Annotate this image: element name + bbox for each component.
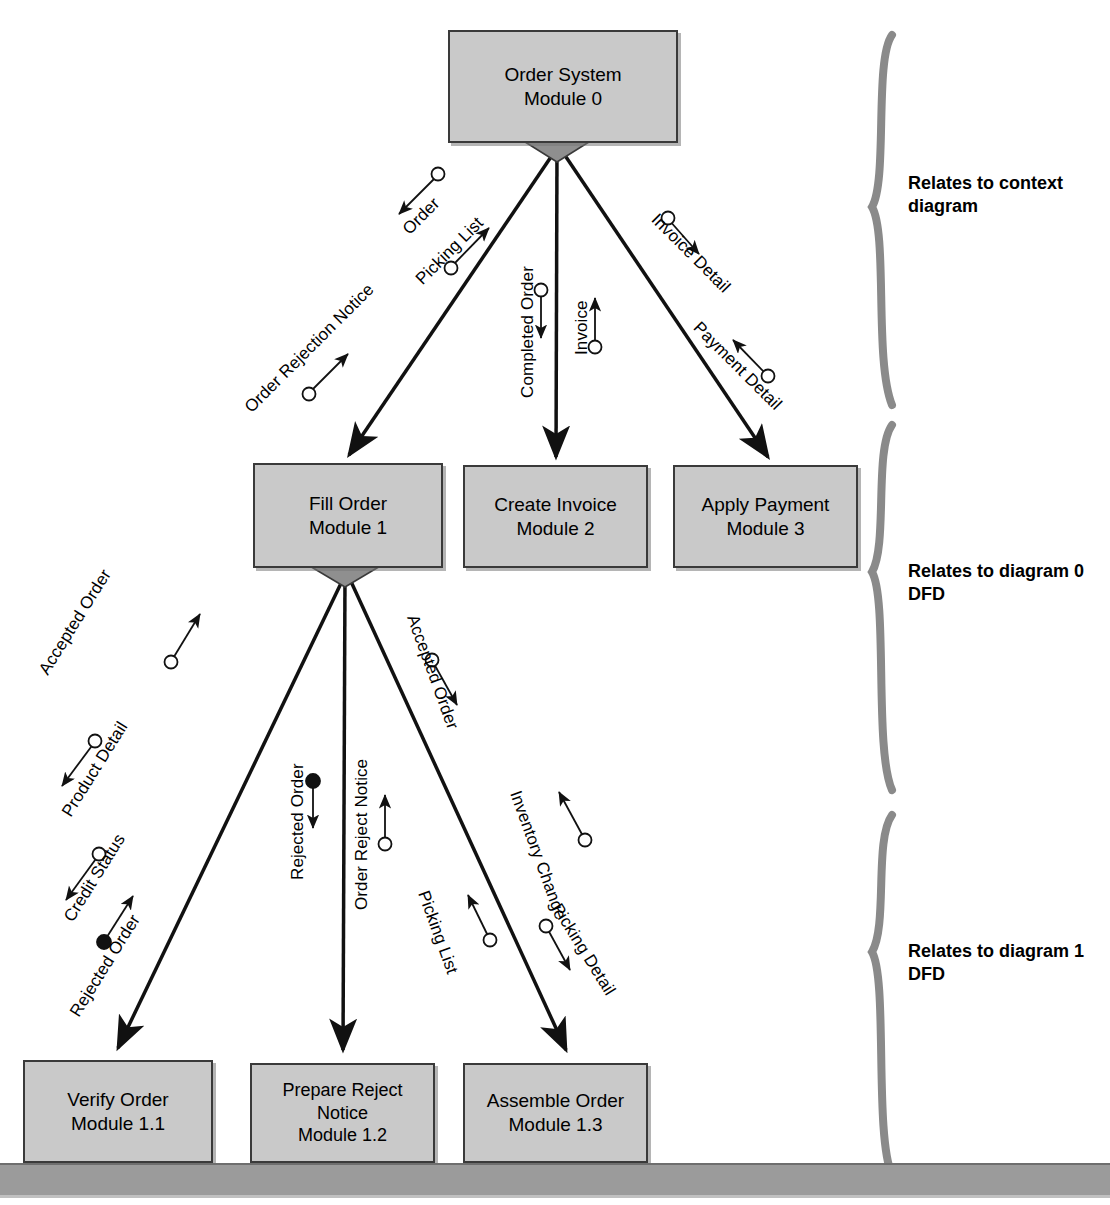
module-name: Prepare Reject Notice (268, 1079, 418, 1124)
brace-context-icon (872, 35, 892, 405)
module-number: Module 1.2 (298, 1124, 387, 1147)
brace-label-context: Relates to context diagram (908, 172, 1108, 217)
couple-picking-list-bottom (468, 895, 497, 947)
couple-order-reject-notice (379, 795, 392, 851)
module-box-create-invoice[interactable]: Create Invoice Module 2 (463, 465, 648, 568)
module-name: Fill Order (309, 492, 387, 516)
couple-accepted-order-left (165, 614, 201, 669)
structure-chart-canvas: Order System Module 0 Fill Order Module … (0, 0, 1110, 1205)
bottom-bar (0, 1163, 1110, 1195)
module-box-apply-payment[interactable]: Apply Payment Module 3 (673, 465, 858, 568)
connector-m1-m13 (348, 575, 566, 1050)
module-box-verify-order[interactable]: Verify Order Module 1.1 (23, 1060, 213, 1163)
connector-m0-m2 (556, 148, 557, 457)
module-number: Module 1.3 (508, 1113, 602, 1137)
module-box-fill-order[interactable]: Fill Order Module 1 (253, 463, 443, 568)
module-name: Order System (504, 63, 621, 87)
module-name: Assemble Order (487, 1089, 624, 1113)
module-name: Verify Order (67, 1088, 168, 1112)
module-number: Module 1 (309, 516, 387, 540)
module-box-order-system[interactable]: Order System Module 0 (448, 30, 678, 143)
brace-diagram1-icon (872, 815, 892, 1175)
brace-label-diagram0: Relates to diagram 0 DFD (908, 560, 1108, 605)
brace-diagram0-icon (872, 425, 892, 790)
module-box-prepare-reject-notice[interactable]: Prepare Reject Notice Module 1.2 (250, 1063, 435, 1163)
connector-m1-m12 (343, 575, 345, 1050)
connector-m1-m11 (118, 575, 345, 1048)
module-name: Apply Payment (702, 493, 830, 517)
module-number: Module 1.1 (71, 1112, 165, 1136)
couple-label-invoice: Invoice (572, 300, 592, 355)
module-number: Module 0 (524, 87, 602, 111)
module-number: Module 2 (516, 517, 594, 541)
couple-label-completed-order: Completed Order (518, 266, 538, 398)
couple-rejected-order-prepare (306, 774, 320, 828)
couple-label-rejected-order-prepare: Rejected Order (288, 763, 308, 880)
brace-label-diagram1: Relates to diagram 1 DFD (908, 940, 1108, 985)
couple-label-order-reject-notice: Order Reject Notice (352, 759, 372, 910)
module-box-assemble-order[interactable]: Assemble Order Module 1.3 (463, 1063, 648, 1163)
couple-inventory-change (559, 792, 592, 847)
module-number: Module 3 (726, 517, 804, 541)
module-name: Create Invoice (494, 493, 617, 517)
